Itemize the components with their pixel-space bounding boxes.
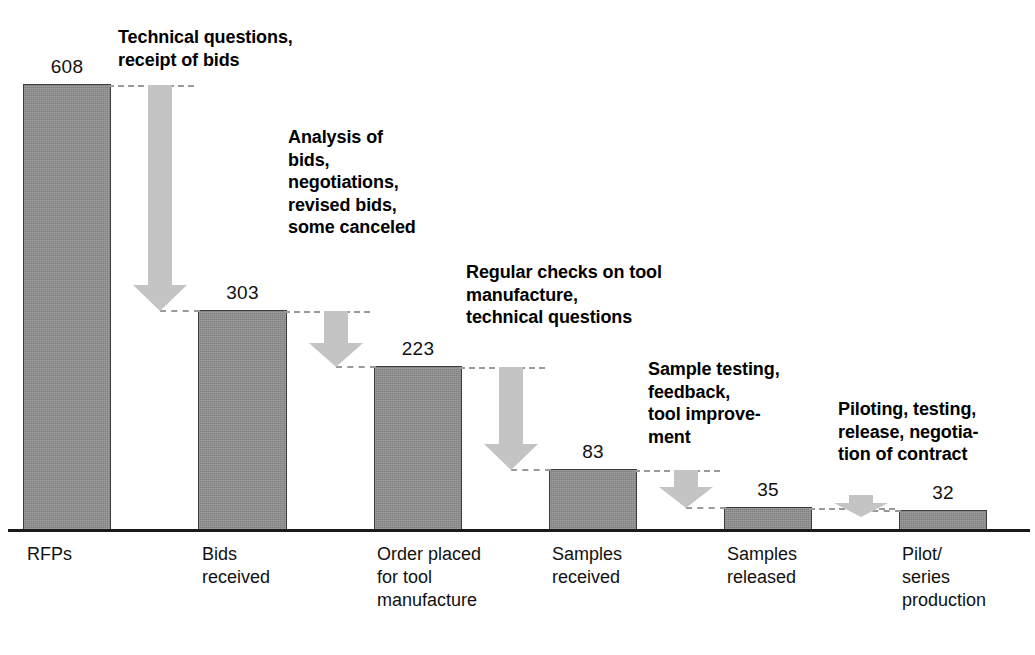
category-label-samples-released: Samples released [727,543,797,589]
annotation-technical-questions: Technical questions, receipt of bids [118,26,293,71]
bar-rfps [23,84,111,530]
annotation-sample-testing: Sample testing, feedback, tool improve- … [648,358,780,448]
bar-pilot-series [899,510,987,530]
value-label-bids-received: 303 [198,282,287,304]
category-label-rfps: RFPs [27,543,72,566]
annotation-piloting-testing: Piloting, testing, release, negotia- tio… [838,398,978,466]
bar-bids-received [198,310,287,530]
value-label-order-placed: 223 [374,338,462,360]
arrow-samples-received-to-released [659,470,713,508]
bar-samples-received [549,469,637,530]
bar-samples-released [724,507,812,530]
x-axis-line [8,529,1030,532]
category-label-order-placed: Order placed for tool manufacture [377,543,481,612]
category-label-pilot-series: Pilot/ series production [902,543,986,612]
arrow-order-to-samples-received [484,367,538,470]
annotation-regular-checks: Regular checks on tool manufacture, tech… [466,261,662,329]
value-label-rfps: 608 [23,56,111,78]
bar-order-placed [374,366,462,530]
value-label-pilot-series: 32 [899,482,987,504]
arrow-released-to-pilot [834,495,888,517]
value-label-samples-received: 83 [549,441,637,463]
funnel-bar-chart: 608 303 223 83 35 32 [0,0,1035,655]
arrow-bids-to-order [309,311,363,367]
arrow-rfps-to-bids [133,85,187,311]
category-label-samples-received: Samples received [552,543,622,589]
category-label-bids-received: Bids received [202,543,270,589]
annotation-analysis-of-bids: Analysis of bids, negotiations, revised … [288,126,416,239]
value-label-samples-released: 35 [724,479,812,501]
